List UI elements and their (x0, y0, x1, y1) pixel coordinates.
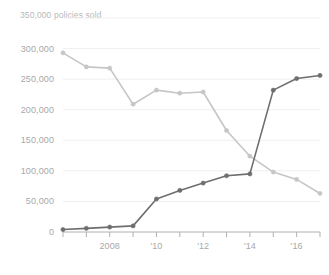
data-point-rising-series (248, 172, 252, 176)
data-point-rising-series (224, 174, 228, 178)
data-point-declining-series (131, 102, 135, 106)
data-point-rising-series (154, 197, 158, 201)
data-point-declining-series (271, 170, 275, 174)
data-point-rising-series (84, 226, 88, 230)
data-point-declining-series (295, 177, 299, 181)
data-point-declining-series (248, 154, 252, 158)
data-point-rising-series (178, 188, 182, 192)
data-point-declining-series (318, 191, 322, 195)
data-point-rising-series (201, 181, 205, 185)
data-point-rising-series (61, 227, 65, 231)
series-line-rising-series (63, 75, 320, 229)
data-point-rising-series (318, 73, 322, 77)
data-point-rising-series (271, 88, 275, 92)
series-line-declining-series (63, 53, 320, 194)
plot-area (0, 0, 329, 275)
data-point-rising-series (131, 224, 135, 228)
data-point-rising-series (295, 76, 299, 80)
data-point-rising-series (108, 225, 112, 229)
data-point-declining-series (178, 91, 182, 95)
data-point-declining-series (224, 128, 228, 132)
data-point-declining-series (201, 90, 205, 94)
data-point-declining-series (108, 66, 112, 70)
data-point-declining-series (61, 51, 65, 55)
policies-sold-line-chart: 350,000 policies sold 050,000100,000150,… (0, 0, 329, 275)
data-point-declining-series (84, 65, 88, 69)
data-point-declining-series (154, 88, 158, 92)
